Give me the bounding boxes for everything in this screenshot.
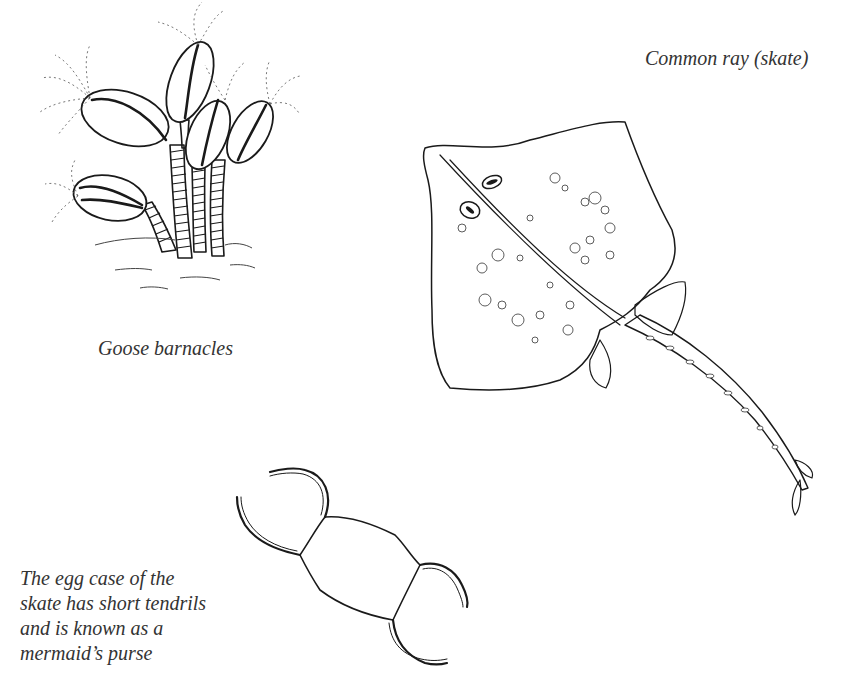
caption-egg-case-line-4: mermaid’s purse <box>20 641 206 666</box>
caption-goose-barnacles: Goose barnacles <box>98 336 233 360</box>
egg-case-illustration <box>225 455 485 675</box>
caption-egg-case: The egg case of the skate has short tend… <box>20 566 206 666</box>
caption-egg-case-line-3: and is known as a <box>20 616 206 641</box>
egg-case-drawing-icon <box>225 455 485 675</box>
barnacle-drawing-icon <box>30 0 300 310</box>
caption-common-ray: Common ray (skate) <box>645 46 808 70</box>
caption-egg-case-line-2: skate has short tendrils <box>20 591 206 616</box>
goose-barnacles-illustration <box>30 0 300 310</box>
caption-egg-case-line-1: The egg case of the <box>20 566 206 591</box>
